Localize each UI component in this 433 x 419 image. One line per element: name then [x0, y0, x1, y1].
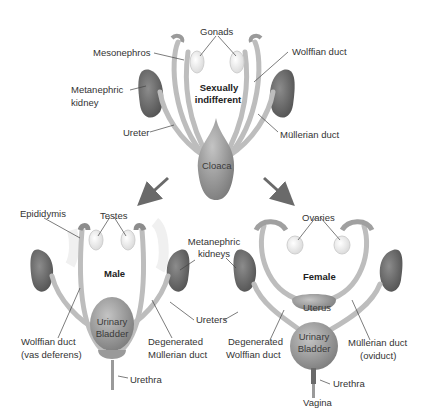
- title-sexually-indifferent-line2: indifferent: [192, 94, 244, 105]
- right-testis: [121, 230, 135, 250]
- label-female-bladder-line1: Urinary: [296, 331, 332, 342]
- label-degenerated-mullerian-line2: Müllerian duct: [148, 349, 207, 360]
- label-testes: Testes: [100, 210, 127, 221]
- left-testis: [89, 230, 103, 250]
- label-mullerian-oviduct-line2: (oviduct): [360, 350, 396, 361]
- label-vagina: Vagina: [303, 397, 332, 408]
- label-male-bladder-line1: Urinary: [94, 316, 130, 327]
- prostate: [98, 350, 126, 359]
- label-metanephric-kidney-line2: kidney: [71, 97, 98, 108]
- right-gonad: [230, 51, 244, 73]
- label-gonads: Gonads: [200, 26, 233, 37]
- female-right-kidney: [380, 250, 403, 292]
- left-ovary: [287, 236, 303, 254]
- label-degenerated-mullerian-line1: Degenerated: [148, 336, 203, 347]
- male-urethra: [111, 360, 114, 390]
- title-male: Male: [104, 268, 125, 279]
- label-female-bladder-line2: Bladder: [296, 343, 332, 354]
- label-degenerated-wolffian-line1: Degenerated: [228, 336, 283, 347]
- label-mullerian-oviduct-line1: Müllerian duct: [348, 337, 407, 348]
- label-metanephric-kidneys-line2: kidneys: [184, 248, 244, 259]
- label-wolffian-vas-deferens-line1: Wolffian duct: [21, 336, 76, 347]
- female-urethra: [311, 368, 316, 384]
- label-mullerian-duct: Müllerian duct: [280, 129, 339, 140]
- reproductive-development-diagram: Gonads Mesonephros Wolffian duct Metanep…: [0, 0, 433, 419]
- label-mesonephros: Mesonephros: [93, 47, 151, 58]
- male-stage: [30, 217, 195, 390]
- right-ovary: [334, 236, 350, 254]
- indifferent-stage: [130, 36, 295, 200]
- label-ureter: Ureter: [123, 127, 149, 138]
- label-ureters: Ureters: [196, 314, 227, 325]
- label-uterus: Uterus: [303, 302, 331, 313]
- label-ovaries: Ovaries: [302, 212, 335, 223]
- title-sexually-indifferent-line1: Sexually: [196, 82, 242, 93]
- label-male-bladder-line2: Bladder: [94, 328, 130, 339]
- vagina: [312, 384, 315, 398]
- left-gonad: [190, 51, 204, 73]
- label-degenerated-wolffian-line2: Wolffian duct: [226, 349, 281, 360]
- label-male-urethra: Urethra: [130, 374, 162, 385]
- label-wolffian-vas-deferens-line2: (vas deferens): [21, 349, 82, 360]
- label-epididymis: Epididymis: [20, 208, 66, 219]
- label-wolffian-duct: Wolffian duct: [292, 46, 347, 57]
- label-female-urethra: Urethra: [333, 378, 365, 389]
- cloaca: [198, 118, 234, 200]
- label-cloaca: Cloaca: [202, 160, 232, 171]
- male-left-kidney: [30, 250, 53, 292]
- label-metanephric-kidney-line1: Metanephric: [71, 84, 123, 95]
- label-metanephric-kidneys-line1: Metanephric: [184, 236, 244, 247]
- title-female: Female: [303, 271, 336, 282]
